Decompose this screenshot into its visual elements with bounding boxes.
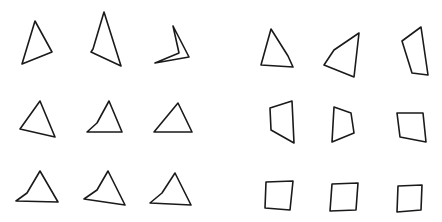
quad-r2-c3: [397, 113, 426, 142]
quad-r3-c3: [397, 185, 422, 212]
triangle-r3-c3: [150, 173, 191, 205]
quad-r3-c2: [330, 183, 358, 211]
triangle-r1-c3: [155, 26, 189, 63]
triangle-r1-c2: [91, 12, 121, 66]
triangle-r3-c1: [16, 171, 58, 202]
triangle-r2-c1: [20, 101, 55, 137]
triangle-r2-c2: [87, 101, 122, 132]
shape-progression-figure: [0, 0, 442, 222]
triangle-r1-c1: [22, 21, 52, 64]
quadrilateral-panel: [261, 27, 428, 212]
triangle-r3-c2: [84, 171, 125, 205]
quad-r2-c2: [332, 107, 354, 142]
quad-r3-c1: [265, 181, 293, 210]
figure-canvas: [0, 0, 442, 222]
triangle-r2-c3: [154, 103, 192, 132]
quad-r1-c3: [402, 27, 428, 75]
quad-r1-c1: [261, 29, 293, 67]
triangle-panel: [16, 12, 192, 205]
quad-r1-c2: [324, 33, 359, 77]
quad-r2-c1: [270, 101, 294, 143]
